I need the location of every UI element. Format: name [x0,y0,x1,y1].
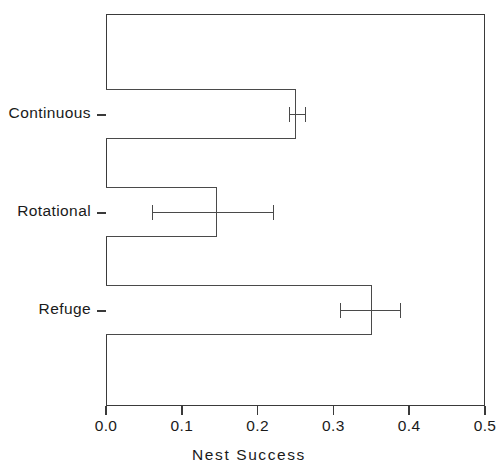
error-bar-cap-high [273,205,274,220]
error-bar-cap-high [305,107,306,122]
x-tick-0.0 [105,406,107,415]
category-label-rotational: Rotational [0,202,91,220]
x-tick-label-0.3: 0.3 [322,417,345,435]
category-tick-rotational [97,212,106,214]
nest-success-bar-chart: ContinuousRotationalRefuge 0.00.10.20.30… [0,0,498,473]
error-bar-cap-high [400,303,401,318]
bar-continuous [106,89,296,139]
x-tick-0.2 [257,406,259,415]
error-bar-cap-low [289,107,290,122]
x-tick-label-0.0: 0.0 [95,417,118,435]
x-tick-0.1 [181,406,183,415]
category-label-refuge: Refuge [0,300,91,318]
error-bar-cap-low [152,205,153,220]
x-tick-0.5 [484,406,486,415]
x-tick-0.4 [408,406,410,415]
x-tick-label-0.4: 0.4 [398,417,421,435]
error-bar-line [340,310,401,311]
error-bar-line [152,212,273,213]
error-bar-line [289,114,306,115]
bars-layer [106,14,485,406]
x-axis-title: Nest Success [0,446,498,464]
bar-refuge [106,285,372,335]
category-tick-refuge [97,310,106,312]
x-tick-label-0.2: 0.2 [246,417,269,435]
x-tick-0.3 [333,406,335,415]
x-tick-label-0.1: 0.1 [170,417,193,435]
category-tick-continuous [97,114,106,116]
x-tick-label-0.5: 0.5 [474,417,497,435]
category-label-continuous: Continuous [0,104,91,122]
error-bar-cap-low [340,303,341,318]
